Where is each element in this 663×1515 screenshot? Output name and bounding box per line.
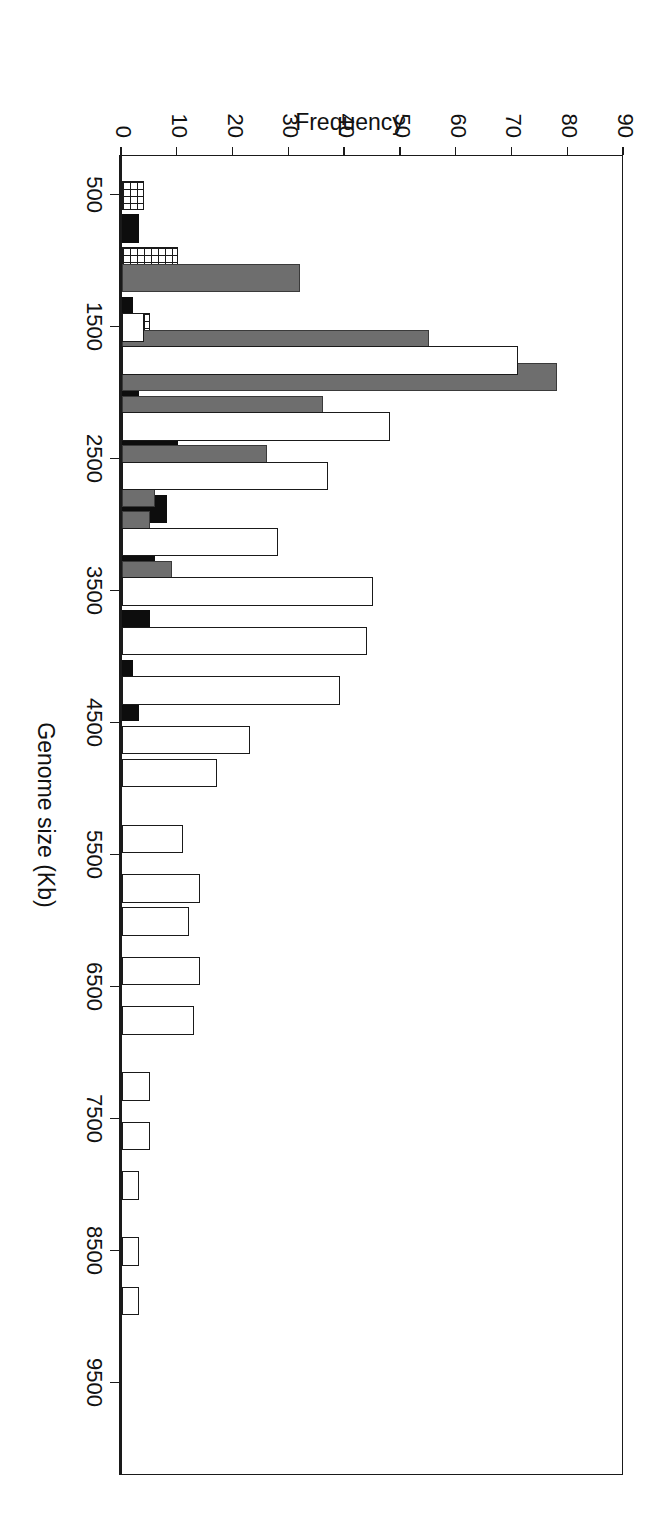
x-tick-label-7500: 7500 <box>81 1074 107 1164</box>
bar-open-3875 <box>122 627 367 655</box>
y-tick-label-70: 70 <box>500 74 526 138</box>
x-tick-6500 <box>110 986 119 987</box>
bar-open-8500 <box>122 1237 139 1265</box>
y-tick-50 <box>399 147 400 155</box>
bar-open-5750 <box>122 874 200 902</box>
x-tick-label-500: 500 <box>81 150 107 240</box>
x-tick-label-8500: 8500 <box>81 1206 107 1296</box>
bar-open-3500 <box>122 577 373 605</box>
x-tick-9500 <box>110 1382 119 1383</box>
bar-open-8000 <box>122 1171 139 1199</box>
y-tick-30 <box>288 147 289 155</box>
bar-open-7625 <box>122 1122 150 1150</box>
x-tick-1500 <box>110 326 119 327</box>
plot-area <box>121 155 623 1475</box>
bar-open-8875 <box>122 1287 139 1315</box>
x-tick-label-4500: 4500 <box>81 678 107 768</box>
bar-open-3125 <box>122 528 278 556</box>
bar-open-1750 <box>122 346 518 374</box>
y-tick-80 <box>567 147 568 155</box>
bar-gray-1125 <box>122 264 300 292</box>
y-tick-70 <box>511 147 512 155</box>
x-tick-label-2500: 2500 <box>81 414 107 504</box>
bar-black-750 <box>122 214 139 242</box>
x-tick-500 <box>110 194 119 195</box>
bar-open-4875 <box>122 759 217 787</box>
x-tick-8500 <box>110 1250 119 1251</box>
y-tick-label-80: 80 <box>556 74 582 138</box>
x-tick-label-3500: 3500 <box>81 546 107 636</box>
x-tick-5500 <box>110 854 119 855</box>
x-tick-7500 <box>110 1118 119 1119</box>
y-tick-0 <box>120 147 121 155</box>
y-tick-60 <box>455 147 456 155</box>
bar-open-5375 <box>122 825 183 853</box>
y-tick-label-0: 0 <box>110 74 136 138</box>
bar-open-6750 <box>122 1006 195 1034</box>
chart-figure: 0102030405060708090 50015002500350045005… <box>0 0 663 1515</box>
chart-canvas: 0102030405060708090 50015002500350045005… <box>0 0 663 1515</box>
bar-open-6000 <box>122 907 189 935</box>
y-axis-title: Frequency <box>220 109 480 136</box>
y-tick-40 <box>343 147 344 155</box>
bar-open-6375 <box>122 957 200 985</box>
x-tick-label-6500: 6500 <box>81 942 107 1032</box>
x-tick-label-1500: 1500 <box>81 282 107 372</box>
x-tick-4500 <box>110 722 119 723</box>
bar-open-4625 <box>122 726 250 754</box>
x-tick-2500 <box>110 458 119 459</box>
axis-baseline <box>119 155 121 1475</box>
x-tick-label-9500: 9500 <box>81 1338 107 1428</box>
x-axis-title: Genome size (Kb) <box>32 155 59 1475</box>
bar-open-7250 <box>122 1072 150 1100</box>
bar-open-2625 <box>122 462 328 490</box>
bar-open-1500 <box>122 313 144 341</box>
y-tick-10 <box>176 147 177 155</box>
bar-crosshatch-500 <box>122 181 144 209</box>
y-tick-90 <box>622 147 623 155</box>
bar-open-4250 <box>122 676 340 704</box>
y-tick-20 <box>232 147 233 155</box>
x-tick-3500 <box>110 590 119 591</box>
y-tick-label-10: 10 <box>166 74 192 138</box>
x-tick-label-5500: 5500 <box>81 810 107 900</box>
bar-open-2250 <box>122 412 390 440</box>
y-tick-label-90: 90 <box>612 74 638 138</box>
